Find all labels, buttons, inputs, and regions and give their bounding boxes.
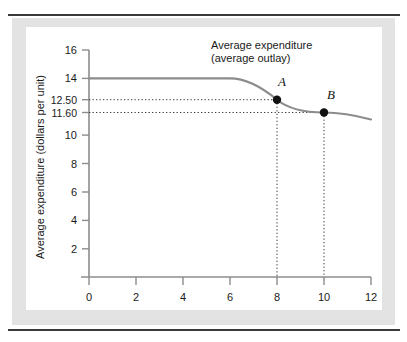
- data-point-b: [320, 108, 328, 116]
- ytick-label-10: 10: [65, 129, 77, 141]
- y-axis-title: Average expenditure (dollars per unit): [34, 75, 46, 259]
- xtick-label-4: 4: [180, 291, 186, 303]
- xtick-label-10: 10: [318, 291, 330, 303]
- expenditure-line-chart: 16 14 12.50 11.60 10 8 6 4 2 0 2 4 6 8 1…: [26, 27, 382, 310]
- ytick-label-2: 2: [71, 243, 77, 255]
- ytick-label-6: 6: [71, 186, 77, 198]
- xtick-label-2: 2: [133, 291, 139, 303]
- ytick-label-11-60: 11.60: [52, 107, 78, 119]
- data-point-b-label: B: [327, 87, 335, 102]
- ytick-label-8: 8: [71, 158, 77, 170]
- y-axis-ticks: [82, 50, 89, 249]
- ytick-label-4: 4: [71, 214, 77, 226]
- xtick-label-6: 6: [227, 291, 233, 303]
- xtick-label-12: 12: [365, 291, 377, 303]
- ytick-label-14: 14: [65, 72, 77, 84]
- top-rule: [8, 14, 400, 16]
- plot-card: 16 14 12.50 11.60 10 8 6 4 2 0 2 4 6 8 1…: [26, 27, 382, 310]
- figure-root: 16 14 12.50 11.60 10 8 6 4 2 0 2 4 6 8 1…: [0, 0, 407, 342]
- data-point-a: [273, 96, 281, 104]
- ytick-label-16: 16: [65, 44, 77, 56]
- x-axis-title: Quantity: [210, 308, 251, 310]
- xtick-label-8: 8: [274, 291, 280, 303]
- ytick-label-12-50: 12.50: [51, 94, 77, 106]
- xtick-label-0: 0: [86, 291, 92, 303]
- chart-title-line-2: (average outlay): [211, 52, 291, 64]
- data-point-a-label: A: [277, 74, 286, 89]
- chart-title-line-1: Average expenditure: [211, 39, 312, 51]
- bottom-rule: [8, 329, 400, 331]
- x-axis-ticks: [89, 277, 371, 285]
